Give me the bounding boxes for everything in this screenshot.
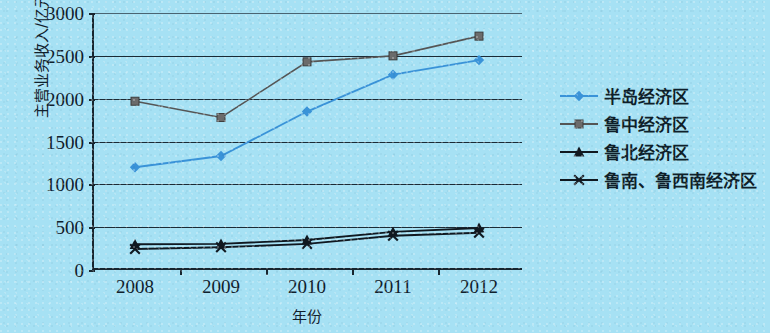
x-tick-label: 2012	[439, 276, 519, 298]
y-tick-label: 0	[22, 261, 84, 280]
x-tick-label: 2011	[353, 276, 433, 298]
y-tick-label: 500	[22, 218, 84, 237]
legend-item: 鲁北经济区	[558, 138, 770, 165]
y-tick-label: 3000	[22, 4, 84, 23]
data-point-marker	[130, 162, 140, 172]
y-tick-mark	[89, 270, 95, 272]
x-axis-title: 年份	[92, 305, 522, 326]
y-tick-label: 1500	[22, 132, 84, 151]
legend-marker-triangle-icon	[558, 143, 600, 161]
x-tick-label: 2008	[95, 276, 175, 298]
y-tick-label: 2000	[22, 89, 84, 108]
data-point-marker	[303, 58, 311, 66]
series-layer	[92, 13, 522, 270]
series-line	[135, 36, 479, 117]
data-point-marker	[474, 55, 484, 65]
y-tick-label: 2500	[22, 46, 84, 65]
y-tick-label: 1000	[22, 175, 84, 194]
data-point-marker	[131, 97, 139, 105]
y-axis-tick-labels: 050010001500200025003000	[22, 0, 84, 333]
x-tick-label: 2010	[267, 276, 347, 298]
legend-marker-square-icon	[558, 115, 600, 133]
legend-label: 鲁南、鲁西南经济区	[604, 167, 757, 192]
legend-item: 半岛经济区	[558, 82, 770, 109]
chart-legend: 半岛经济区鲁中经济区鲁北经济区鲁南、鲁西南经济区	[558, 82, 770, 194]
data-point-marker	[217, 114, 225, 122]
legend-label: 半岛经济区	[604, 83, 689, 108]
data-point-marker	[216, 151, 226, 161]
series-1	[130, 55, 484, 172]
data-point-marker	[389, 52, 397, 60]
data-point-marker	[475, 32, 483, 40]
legend-marker-x-icon	[558, 171, 600, 189]
x-tick-label: 2009	[181, 276, 261, 298]
data-point-marker	[388, 69, 398, 79]
legend-item: 鲁南、鲁西南经济区	[558, 166, 770, 193]
legend-label: 鲁中经济区	[604, 111, 689, 136]
data-point-marker	[302, 106, 312, 116]
legend-label: 鲁北经济区	[604, 139, 689, 164]
legend-item: 鲁中经济区	[558, 110, 770, 137]
line-chart: 主营业务收入/亿元 050010001500200025003000 20082…	[0, 0, 770, 333]
legend-marker-diamond-icon	[558, 87, 600, 105]
